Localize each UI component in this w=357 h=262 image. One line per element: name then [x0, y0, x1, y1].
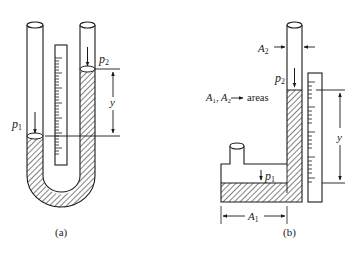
caption-a: (a) — [55, 226, 68, 239]
A1-label: A1 — [247, 210, 259, 224]
column-opening — [287, 22, 302, 28]
well-type-manometer: y A2 p2 p1 A1 A1, A2 areas (b) — [205, 22, 345, 239]
u-tube-manometer: y p1 p2 (a) — [11, 22, 120, 239]
A2-label: A2 — [257, 42, 269, 56]
y-label-a: y — [109, 96, 115, 108]
areas-legend: A1, A2 — [205, 92, 231, 105]
left-meniscus — [27, 133, 43, 139]
measuring-scale-b — [308, 73, 322, 202]
y-label-b: y — [336, 131, 342, 143]
right-meniscus — [80, 66, 95, 72]
p2-label-a: p2 — [98, 52, 109, 67]
left-tube-opening — [27, 22, 43, 28]
caption-b: (b) — [283, 226, 296, 239]
p1-label-b: p1 — [264, 169, 275, 184]
right-tube-opening — [80, 22, 95, 28]
measuring-scale-a — [55, 45, 67, 165]
well-vent-opening — [230, 143, 244, 149]
p1-label-a: p1 — [11, 117, 22, 132]
manometer-diagram: y p1 p2 (a) — [0, 0, 357, 262]
areas-legend-text: areas — [247, 92, 269, 103]
p2-label-b: p2 — [274, 71, 285, 86]
